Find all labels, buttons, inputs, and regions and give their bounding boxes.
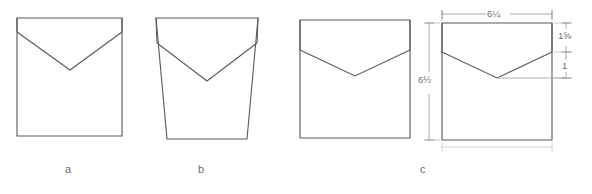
figure-b-caption: b <box>198 163 204 175</box>
height-dimension-label: 6½ <box>418 74 431 85</box>
figure-c-dim-body <box>442 23 552 140</box>
figure-b-body <box>156 18 258 139</box>
figure-b-group <box>156 18 258 139</box>
figures-svg <box>0 0 592 194</box>
flap-point-dimension-label: 1 <box>562 60 567 71</box>
figure-a-caption: a <box>65 163 71 175</box>
diagram-canvas: 6¼ 6½ 1⅝ 1 a b c <box>0 0 592 194</box>
figure-c-dimensioned-group <box>442 23 566 140</box>
figure-a-body <box>17 18 122 136</box>
figure-a-group <box>17 18 122 136</box>
bottom-dimension-group <box>442 143 552 151</box>
figure-c-caption: c <box>420 163 426 175</box>
figure-c-body <box>300 20 410 138</box>
figure-c-group <box>300 20 410 138</box>
width-dimension-label: 6¼ <box>487 8 500 19</box>
flap-height-dimension-label: 1⅝ <box>558 30 571 41</box>
